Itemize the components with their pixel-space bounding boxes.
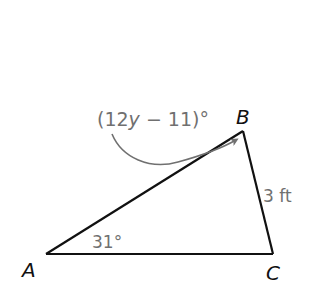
angle-b-arrow-icon xyxy=(112,134,236,164)
angle-b-expression: (12y − 11)° xyxy=(97,108,209,130)
side-ab xyxy=(46,131,243,254)
vertex-label-a: A xyxy=(20,258,36,282)
triangle-diagram: (12y − 11)° B A C 31° 3 ft xyxy=(0,0,318,295)
vertex-label-c: C xyxy=(266,261,280,285)
angle-a-measure: 31° xyxy=(92,232,122,252)
side-bc-length: 3 ft xyxy=(263,186,292,206)
vertex-label-b: B xyxy=(236,105,250,129)
